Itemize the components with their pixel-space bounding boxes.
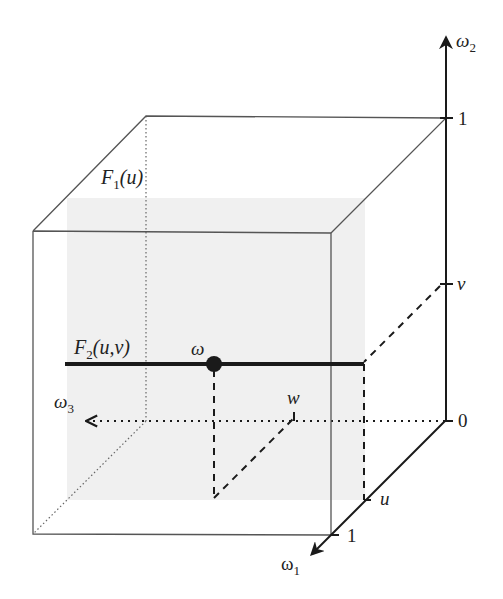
- omega-point: [206, 356, 222, 372]
- tick-label-one-depth: 1: [347, 525, 357, 546]
- tick-label-one-vertical: 1: [458, 108, 468, 129]
- f1-label: F1(u): [100, 166, 143, 192]
- omega-point-label: ω: [191, 338, 204, 359]
- omega1-label: ω1: [281, 553, 300, 578]
- unit-cube-diagram: ω2 1 v 0 u 1 w ω1 ω3 F1(u) F2(u,v) ω: [0, 0, 503, 599]
- omega2-label: ω2: [456, 30, 476, 55]
- tick-label-v: v: [457, 273, 466, 294]
- tick-label-u: u: [380, 488, 390, 509]
- w-label: w: [287, 387, 300, 408]
- dash-v-to-f2: [364, 286, 440, 362]
- tick-label-zero: 0: [458, 410, 468, 431]
